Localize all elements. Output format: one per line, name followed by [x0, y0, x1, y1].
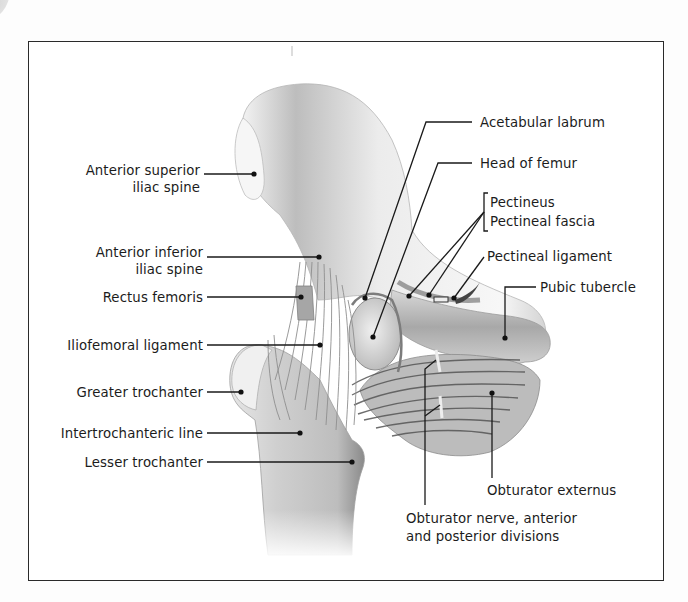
- label-line: iliac spine: [96, 261, 203, 278]
- label-line: Obturator nerve, anterior: [406, 510, 577, 528]
- pectineal-ligament-clamp: [434, 297, 448, 302]
- label-rectus-femoris: Rectus femoris: [103, 289, 203, 306]
- label-line: Acetabular labrum: [480, 114, 605, 131]
- label-line: Obturator externus: [487, 482, 616, 499]
- label-line: Anterior inferior: [96, 244, 203, 261]
- label-obturator-nerve: Obturator nerve, anterior and posterior …: [406, 510, 577, 546]
- label-line: Lesser trochanter: [85, 454, 203, 471]
- label-line: Pectineus: [490, 193, 595, 212]
- label-head-of-femur: Head of femur: [480, 155, 577, 172]
- label-intertrochanteric-line: Intertrochanteric line: [61, 425, 203, 442]
- label-line: Iliofemoral ligament: [67, 337, 203, 354]
- label-line: and posterior divisions: [406, 528, 577, 546]
- label-greater-trochanter: Greater trochanter: [77, 384, 203, 401]
- label-line: Greater trochanter: [77, 384, 203, 401]
- label-line: Rectus femoris: [103, 289, 203, 306]
- label-pectineal-ligament: Pectineal ligament: [487, 248, 612, 265]
- label-line: Pectineal fascia: [490, 212, 595, 231]
- label-anterior-superior-iliac-spine: Anterior superior iliac spine: [86, 162, 200, 196]
- label-pectineus-group: Pectineus Pectineal fascia: [490, 193, 595, 231]
- label-line: Pectineal ligament: [487, 248, 612, 265]
- label-pubic-tubercle: Pubic tubercle: [540, 279, 636, 296]
- label-iliofemoral-ligament: Iliofemoral ligament: [67, 337, 203, 354]
- label-line: Intertrochanteric line: [61, 425, 203, 442]
- label-line: Head of femur: [480, 155, 577, 172]
- label-obturator-externus: Obturator externus: [487, 482, 616, 499]
- label-line: Pubic tubercle: [540, 279, 636, 296]
- label-line: iliac spine: [86, 179, 200, 196]
- label-lesser-trochanter: Lesser trochanter: [85, 454, 203, 471]
- label-acetabular-labrum: Acetabular labrum: [480, 114, 605, 131]
- label-anterior-inferior-iliac-spine: Anterior inferior iliac spine: [96, 244, 203, 278]
- label-line: Anterior superior: [86, 162, 200, 179]
- rectus-femoris-tendon: [296, 286, 314, 320]
- femoral-head-shape: [349, 298, 401, 370]
